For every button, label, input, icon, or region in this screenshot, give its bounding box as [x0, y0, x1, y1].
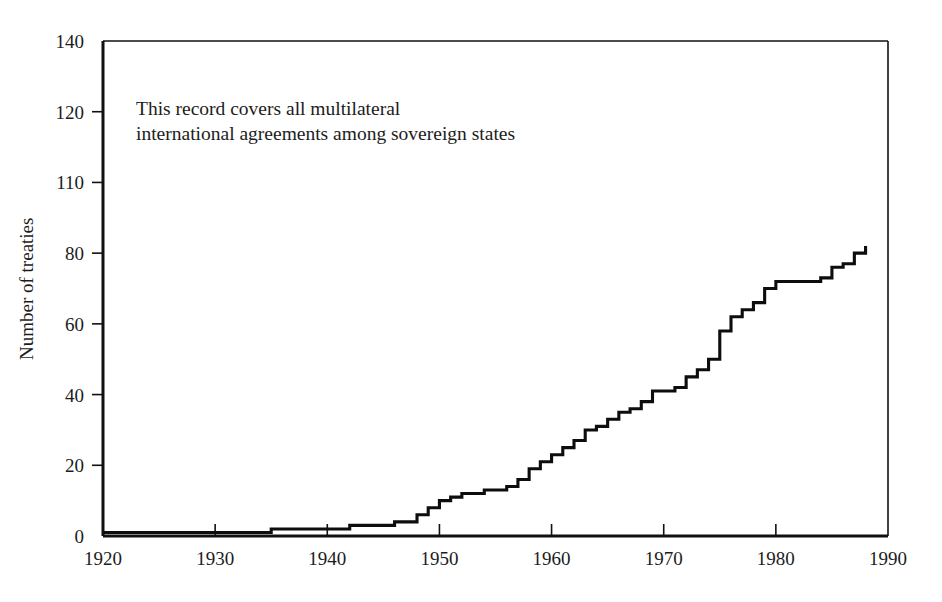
- x-tick-label: 1980: [757, 548, 795, 569]
- y-axis-title: Number of treaties: [16, 218, 37, 360]
- y-tick-label: 20: [65, 455, 84, 476]
- x-tick-label: 1950: [420, 548, 458, 569]
- y-tick-label: 120: [56, 102, 85, 123]
- x-axis: 19201930194019501960197019801990: [84, 524, 907, 569]
- x-tick-label: 1940: [308, 548, 346, 569]
- y-tick-label: 110: [56, 172, 84, 193]
- annotation-line-2: international agreements among sovereign…: [136, 123, 515, 144]
- data-series-cumulative-treaties: [103, 246, 866, 532]
- x-tick-label: 1920: [84, 548, 122, 569]
- y-tick-label: 40: [65, 385, 84, 406]
- x-tick-label: 1970: [645, 548, 683, 569]
- chart-annotation: This record covers all multilateral inte…: [136, 98, 515, 144]
- x-tick-label: 1990: [869, 548, 907, 569]
- x-tick-label: 1960: [533, 548, 571, 569]
- x-tick-label: 1930: [196, 548, 234, 569]
- y-axis: 020406080110120140: [56, 31, 104, 547]
- y-tick-label: 140: [56, 31, 85, 52]
- annotation-line-1: This record covers all multilateral: [136, 98, 401, 119]
- chart-page: 020406080110120140 192019301940195019601…: [0, 0, 942, 602]
- treaties-line-chart: 020406080110120140 192019301940195019601…: [0, 0, 942, 602]
- y-tick-label: 60: [65, 314, 84, 335]
- y-tick-label: 80: [65, 243, 84, 264]
- y-tick-label: 0: [75, 526, 85, 547]
